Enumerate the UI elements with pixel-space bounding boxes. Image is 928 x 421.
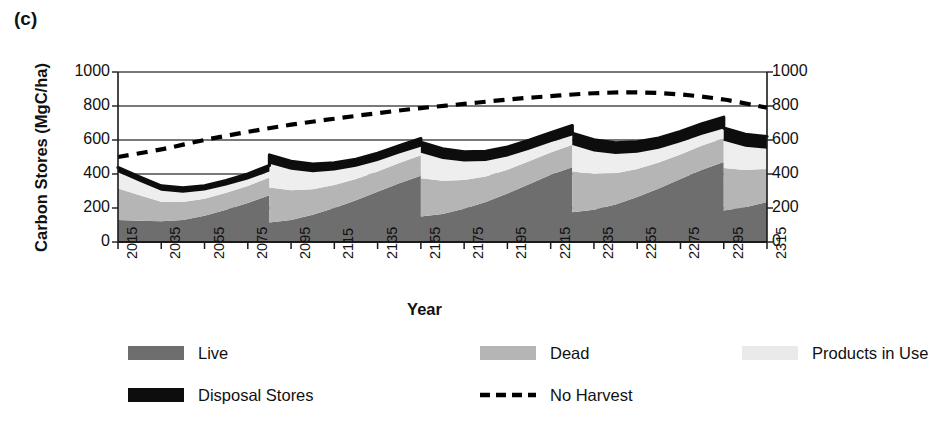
legend-label: Disposal Stores xyxy=(198,386,314,405)
legend-label: Products in Use xyxy=(812,344,928,363)
x-tick-label-2095: 2095 xyxy=(297,227,313,259)
legend-swatch-disposal-stores-icon xyxy=(128,388,184,402)
legend-row-0: LiveDeadProducts in Use xyxy=(0,336,829,370)
y-tick-label-left-1000: 1000 xyxy=(48,62,110,80)
legend-swatch-products-in-use-icon xyxy=(742,346,798,360)
legend-label: Live xyxy=(198,344,228,363)
legend-item-live[interactable]: Live xyxy=(128,336,228,370)
x-axis-title-text: Year xyxy=(407,300,442,319)
legend-label: Dead xyxy=(550,344,589,363)
y-tick-label-left-200: 200 xyxy=(48,198,110,216)
y-tick-label-right-1000: 1000 xyxy=(772,62,834,80)
x-tick-label-2135: 2135 xyxy=(384,227,400,259)
legend-label: No Harvest xyxy=(550,386,633,405)
y-tick-label-left-0: 0 xyxy=(48,232,110,250)
y-tick-label-right-400: 400 xyxy=(772,164,834,182)
legend: LiveDeadProducts in UseDisposal StoresNo… xyxy=(0,336,829,421)
x-tick-label-2275: 2275 xyxy=(686,227,702,259)
x-tick-label-2315: 2315 xyxy=(773,227,789,259)
y-tick-label-right-200: 200 xyxy=(772,198,834,216)
x-tick-label-2055: 2055 xyxy=(211,227,227,259)
x-tick-label-2215: 2215 xyxy=(557,227,573,259)
legend-item-no-harvest[interactable]: No Harvest xyxy=(480,378,633,412)
legend-swatch-live-icon xyxy=(128,346,184,360)
x-tick-label-2155: 2155 xyxy=(427,227,443,259)
x-tick-label-2255: 2255 xyxy=(643,227,659,259)
x-tick-label-2175: 2175 xyxy=(470,227,486,259)
x-tick-label-2015: 2015 xyxy=(124,227,140,259)
legend-swatch-dead-icon xyxy=(480,346,536,360)
y-tick-label-right-800: 800 xyxy=(772,96,834,114)
x-tick-label-2235: 2235 xyxy=(600,227,616,259)
x-tick-label-2115: 2115 xyxy=(340,228,356,259)
legend-swatch-no-harvest-icon xyxy=(480,388,536,402)
legend-item-disposal-stores[interactable]: Disposal Stores xyxy=(128,378,314,412)
y-tick-label-right-600: 600 xyxy=(772,130,834,148)
x-tick-label-2295: 2295 xyxy=(730,227,746,259)
x-tick-label-2035: 2035 xyxy=(167,227,183,259)
legend-item-products-in-use[interactable]: Products in Use xyxy=(742,336,928,370)
x-tick-label-2195: 2195 xyxy=(513,227,529,259)
legend-item-dead[interactable]: Dead xyxy=(480,336,589,370)
y-tick-label-left-400: 400 xyxy=(48,164,110,182)
y-tick-label-left-600: 600 xyxy=(48,130,110,148)
y-tick-label-left-800: 800 xyxy=(48,96,110,114)
legend-row-1: Disposal StoresNo Harvest xyxy=(0,378,829,412)
x-axis-title: Year xyxy=(0,300,829,319)
x-tick-label-2075: 2075 xyxy=(254,227,270,259)
